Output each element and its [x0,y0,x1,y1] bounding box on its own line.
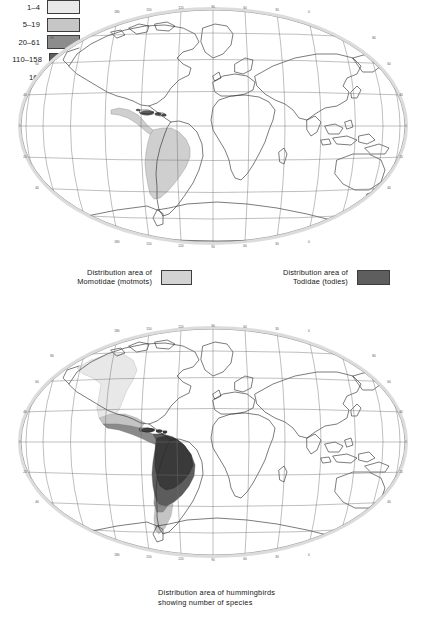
svg-text:180: 180 [114,329,120,333]
svg-text:0: 0 [19,440,21,444]
legend-momotidae-swatch [161,270,192,285]
svg-text:150: 150 [146,555,152,559]
svg-text:40: 40 [399,410,403,414]
svg-text:60: 60 [243,244,247,248]
legend-momotidae-label: Distribution area of Momotidae (motmots) [48,268,152,287]
svg-text:0: 0 [19,124,21,128]
svg-text:0: 0 [308,329,310,333]
svg-text:0: 0 [405,440,407,444]
svg-text:120: 120 [178,325,184,329]
svg-text:0: 0 [308,240,310,244]
svg-text:60: 60 [35,380,39,384]
svg-text:30: 30 [275,555,279,559]
svg-text:30: 30 [275,242,279,246]
figure-root: 180150 12090 6030 0 180150 12090 6030 0 … [0,0,426,627]
svg-text:20: 20 [399,470,403,474]
svg-text:40: 40 [35,186,39,190]
svg-text:30: 30 [275,8,279,12]
legend-todidae-label: Distribution area of Todidae (todies) [258,268,348,287]
legend-hummingbird-caption: Distribution area of hummingbirds showin… [158,588,275,607]
svg-text:120: 120 [178,557,184,561]
svg-text:40: 40 [23,410,27,414]
svg-text:180: 180 [114,240,120,244]
svg-text:60: 60 [243,557,247,561]
svg-text:20: 20 [399,155,403,159]
svg-text:90: 90 [211,5,215,9]
svg-text:0: 0 [308,553,310,557]
svg-text:40: 40 [387,500,391,504]
svg-text:90: 90 [211,324,215,328]
legend-momotidae: Distribution area of Momotidae (motmots) [48,268,192,287]
svg-text:80: 80 [372,36,376,40]
svg-text:40: 40 [387,186,391,190]
svg-text:120: 120 [178,244,184,248]
svg-text:40: 40 [399,93,403,97]
svg-text:80: 80 [50,36,54,40]
svg-text:20: 20 [23,470,27,474]
svg-text:150: 150 [146,8,152,12]
svg-text:40: 40 [23,93,27,97]
svg-text:90: 90 [211,558,215,562]
svg-text:0: 0 [308,10,310,14]
svg-text:80: 80 [372,354,376,358]
svg-text:60: 60 [243,6,247,10]
world-map-hummingbirds: 180150 12090 6030 0 180150 12090 6030 0 … [7,322,419,562]
svg-text:30: 30 [275,327,279,331]
svg-text:120: 120 [178,6,184,10]
svg-text:20: 20 [23,155,27,159]
svg-text:0: 0 [405,124,407,128]
legend-todidae: Distribution area of Todidae (todies) [258,268,390,287]
svg-text:150: 150 [146,327,152,331]
svg-text:180: 180 [114,553,120,557]
svg-text:150: 150 [146,242,152,246]
svg-text:60: 60 [35,62,39,66]
svg-text:90: 90 [211,245,215,249]
legend-todidae-swatch [357,270,390,285]
world-map-motmots-todies: 180150 12090 6030 0 180150 12090 6030 0 … [7,2,419,250]
svg-text:180: 180 [114,10,120,14]
svg-text:80: 80 [50,354,54,358]
svg-text:60: 60 [387,62,391,66]
svg-text:60: 60 [387,380,391,384]
svg-text:60: 60 [243,325,247,329]
svg-text:40: 40 [35,500,39,504]
